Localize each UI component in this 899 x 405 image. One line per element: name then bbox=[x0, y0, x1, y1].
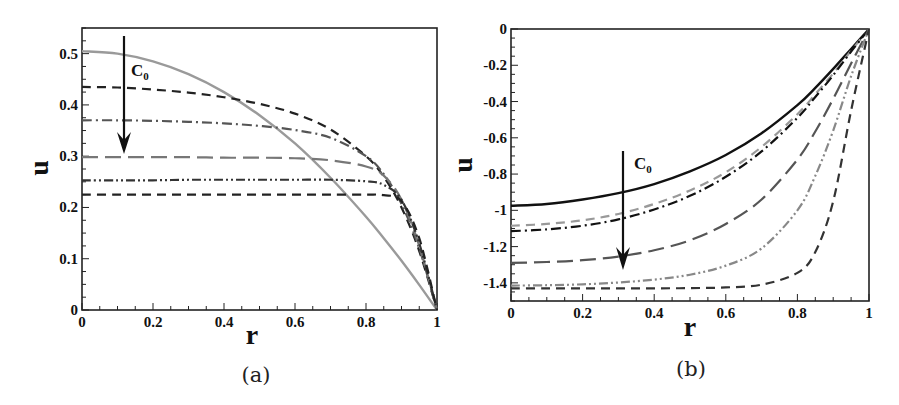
figure: 00.20.40.60.8100.10.20.30.40.5 C0 r u (a… bbox=[0, 0, 899, 405]
series-curve-3 bbox=[82, 120, 437, 310]
x-tick-label: 0.2 bbox=[573, 305, 592, 321]
panel-caption-a: (a) bbox=[242, 363, 271, 387]
y-axis-title-b: u bbox=[447, 157, 478, 173]
series-curve-5 bbox=[82, 180, 437, 310]
series-curve-6 bbox=[511, 29, 869, 288]
x-tick-label: 0 bbox=[78, 314, 86, 330]
c0-arrow-b bbox=[616, 151, 630, 270]
x-axis-title-a: r bbox=[246, 319, 258, 350]
c0-label-a: C0 bbox=[131, 61, 149, 82]
curves-a bbox=[82, 51, 437, 310]
y-tick-label: 0 bbox=[71, 302, 79, 318]
y-tick-label: -0.4 bbox=[483, 94, 507, 110]
y-axis-title-a: u bbox=[23, 160, 54, 176]
x-tick-label: 0.8 bbox=[788, 305, 807, 321]
y-tick-label: 0.1 bbox=[59, 251, 78, 267]
y-tick-label: -0.6 bbox=[483, 130, 507, 146]
x-axis-title-b: r bbox=[684, 311, 696, 342]
x-tick-label: 1 bbox=[433, 314, 441, 330]
y-tick-label: 0.4 bbox=[59, 97, 78, 113]
y-tick-label: 0.3 bbox=[59, 148, 78, 164]
x-tick-label: 0.2 bbox=[144, 314, 163, 330]
panel-b: 00.20.40.60.810-0.2-0.4-0.6-0.8-1-1.2-1.… bbox=[447, 21, 873, 381]
panel-a: 00.20.40.60.8100.10.20.30.40.5 C0 r u (a… bbox=[23, 28, 441, 387]
series-curve-5 bbox=[511, 29, 869, 286]
y-tick-label: 0.2 bbox=[59, 199, 78, 215]
x-tick-label: 0.8 bbox=[357, 314, 376, 330]
y-tick-label: -1.4 bbox=[483, 275, 507, 291]
y-tick-label: -0.8 bbox=[483, 166, 507, 182]
x-tick-label: 0.6 bbox=[286, 314, 305, 330]
x-tick-label: 0.4 bbox=[215, 314, 234, 330]
x-tick-label: 0.6 bbox=[716, 305, 735, 321]
y-tick-label: 0 bbox=[500, 21, 508, 37]
y-tick-label: -1.2 bbox=[483, 239, 507, 255]
y-tick-label: 0.5 bbox=[59, 46, 78, 62]
x-tick-label: 0.4 bbox=[645, 305, 664, 321]
series-curve-2 bbox=[82, 87, 437, 310]
curves-b bbox=[511, 29, 869, 288]
panel-caption-b: (b) bbox=[676, 357, 706, 381]
series-curve-1 bbox=[511, 29, 869, 206]
y-tick-label: -1 bbox=[495, 202, 508, 218]
series-curve-6 bbox=[82, 195, 437, 310]
x-tick-label: 1 bbox=[865, 305, 873, 321]
x-tick-label: 0 bbox=[507, 305, 515, 321]
c0-label-b: C0 bbox=[634, 154, 652, 175]
series-curve-4 bbox=[511, 29, 869, 263]
y-tick-label: -0.2 bbox=[483, 57, 507, 73]
